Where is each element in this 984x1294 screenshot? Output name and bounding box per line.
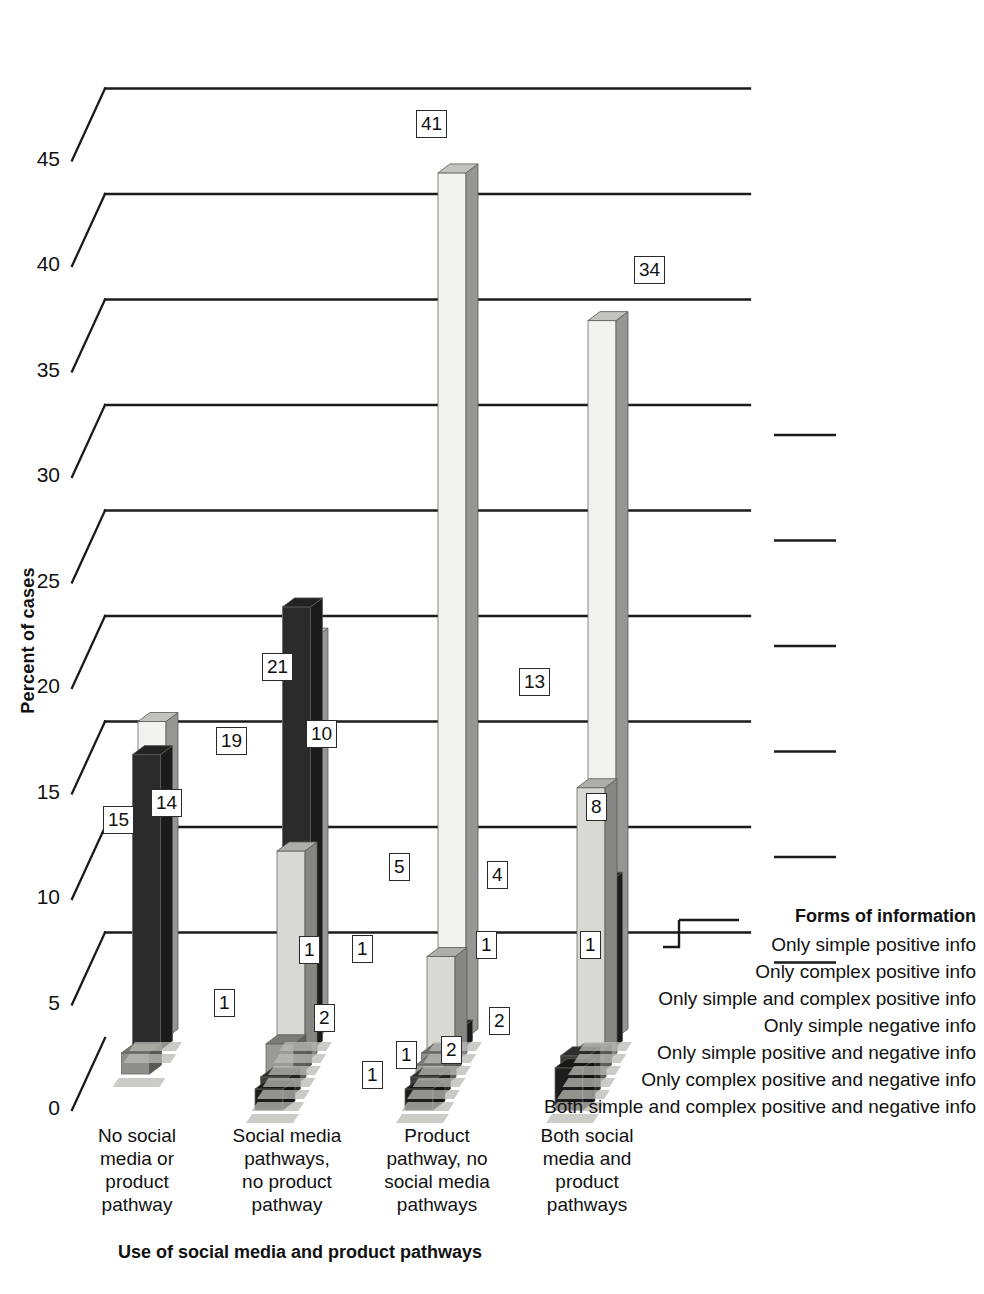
x-axis-category-label-line: product (78, 1170, 196, 1193)
bar-value-label: 2 (314, 1004, 335, 1032)
y-axis-tick-label: 35 (22, 358, 60, 382)
x-axis-category-label-line: no product (228, 1170, 346, 1193)
bar-value-label: 10 (306, 720, 337, 748)
y-axis-tick-label: 5 (22, 991, 60, 1015)
x-axis-category-label-line: Social media (228, 1124, 346, 1147)
x-axis-category-label-line: Both social (528, 1124, 646, 1147)
bar-value-label: 1 (396, 1041, 417, 1069)
y-axis-tick-label: 30 (22, 463, 60, 487)
right-wall-ticks (774, 435, 836, 963)
chart-canvas: 051015202530354045 Percent of cases 1514… (0, 0, 984, 1294)
x-axis-title: Use of social media and product pathways (0, 1242, 600, 1263)
x-axis-category-label-line: social media (378, 1170, 496, 1193)
x-axis-category-label: Social mediapathways,no productpathway (228, 1124, 346, 1216)
y-axis-title: Percent of cases (18, 561, 39, 721)
legend-item[interactable]: Only simple positive info (416, 931, 976, 958)
legend-item[interactable]: Only simple and complex positive info (416, 985, 976, 1012)
bar-value-label: 14 (151, 789, 182, 817)
bar-value-label: 1 (214, 989, 235, 1017)
legend-items: Only simple positive infoOnly complex po… (416, 931, 976, 1120)
x-axis-category-label-line: pathway (78, 1193, 196, 1216)
x-axis-category-label: Both socialmedia andproductpathways (528, 1124, 646, 1216)
y-axis-tick-label: 45 (22, 147, 60, 171)
bar-value-label: 5 (389, 853, 410, 881)
x-axis-category-label-line: pathways, (228, 1147, 346, 1170)
x-axis-category-label: No socialmedia orproductpathway (78, 1124, 196, 1216)
bar-value-label: 15 (103, 806, 134, 834)
x-axis-category-label-line: pathway (228, 1193, 346, 1216)
bar-value-label: 41 (416, 110, 447, 138)
x-axis-category-label-line: media and (528, 1147, 646, 1170)
legend-item[interactable]: Only simple negative info (416, 1012, 976, 1039)
bar-value-label: 19 (216, 727, 247, 755)
legend-title: Forms of information (416, 903, 976, 929)
y-axis-tick-label: 0 (22, 1096, 60, 1120)
y-axis-tick-label: 40 (22, 252, 60, 276)
x-axis-category-label-line: No social (78, 1124, 196, 1147)
y-axis-tick-label: 15 (22, 780, 60, 804)
bar-value-label: 8 (586, 793, 607, 821)
x-axis-category-label-line: pathways (378, 1193, 496, 1216)
y-axis-tick-label: 10 (22, 885, 60, 909)
bar-value-label: 21 (262, 653, 293, 681)
legend-item[interactable]: Both simple and complex positive and neg… (416, 1093, 976, 1120)
x-axis-category-label-line: product (528, 1170, 646, 1193)
bar-value-label: 34 (634, 256, 665, 284)
legend-item[interactable]: Only complex positive and negative info (416, 1066, 976, 1093)
legend: Forms of information Only simple positiv… (416, 903, 976, 1120)
x-axis-category-label-line: media or (78, 1147, 196, 1170)
bar-value-label: 4 (487, 861, 508, 889)
bar-value-label: 13 (519, 668, 550, 696)
x-axis-category-label: Productpathway, nosocial mediapathways (378, 1124, 496, 1216)
x-axis-category-label-line: pathways (528, 1193, 646, 1216)
legend-item[interactable]: Only complex positive info (416, 958, 976, 985)
bar-value-label: 1 (352, 935, 373, 963)
bar-value-label: 1 (299, 936, 320, 964)
legend-item[interactable]: Only simple positive and negative info (416, 1039, 976, 1066)
x-axis-category-label-line: pathway, no (378, 1147, 496, 1170)
x-axis-category-label-line: Product (378, 1124, 496, 1147)
bar-value-label: 1 (362, 1061, 383, 1089)
